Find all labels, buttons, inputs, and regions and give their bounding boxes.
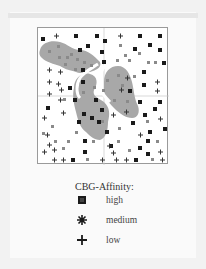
legend-item-medium: medium [75, 214, 137, 226]
affinity-map-svg [38, 28, 169, 165]
scan-border [8, 13, 198, 18]
filled-square-icon [75, 195, 89, 205]
asterisk-icon [75, 214, 89, 226]
affinity-map-plot [37, 27, 168, 164]
legend-item-high: high [75, 194, 123, 206]
plus-icon [75, 234, 89, 246]
legend-label-high: high [106, 195, 123, 205]
legend-title: CBG-Affinity: [75, 181, 134, 192]
legend-label-medium: medium [106, 215, 137, 225]
legend-item-low: low [75, 234, 120, 246]
legend-label-low: low [106, 235, 120, 245]
